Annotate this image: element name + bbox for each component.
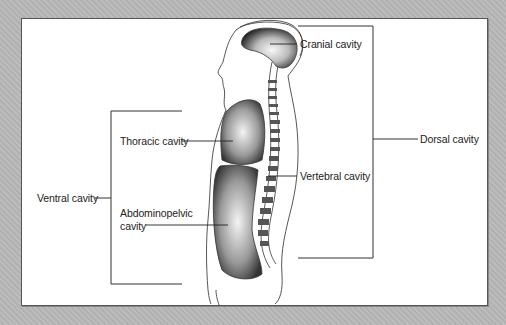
vertebral-column [261,62,279,268]
cranial-cavity-shape [241,28,297,68]
label-vertebral-cavity: Vertebral cavity [300,170,370,182]
label-ventral-cavity: Ventral cavity [37,192,98,204]
label-cranial-cavity: Cranial cavity [300,38,362,50]
dorsal-bracket [298,26,418,258]
vertebrae [258,80,280,246]
thoracic-cavity-shape [221,100,265,165]
label-dorsal-cavity: Dorsal cavity [420,133,479,145]
label-abdominopelvic-line1: Abdominopelvic [120,207,193,219]
abdominopelvic-cavity-shape [213,165,262,279]
label-thoracic-cavity: Thoracic cavity [120,135,189,147]
label-abdominopelvic-line2: cavity [120,220,146,232]
body-cavities-illustration [0,0,506,325]
